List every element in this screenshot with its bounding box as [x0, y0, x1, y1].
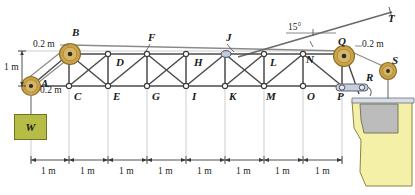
- joint-label-J: J: [226, 32, 232, 43]
- weight-block: W: [14, 114, 47, 140]
- joint-label-S: S: [392, 55, 398, 66]
- pulley-B: [60, 44, 81, 65]
- joint-label-F: F: [148, 32, 155, 43]
- joint-N: [300, 51, 305, 56]
- dimension-chain-bottom: [31, 156, 342, 164]
- angle-label-15deg: 15°: [288, 23, 301, 33]
- pulley-A-hub: [29, 84, 33, 88]
- joint-C: [66, 83, 71, 88]
- wall-top-ledge: [352, 98, 414, 103]
- leader-line-F: [146, 44, 150, 51]
- joint-label-N: N: [306, 54, 314, 65]
- joint-E: [105, 83, 110, 88]
- joint-M: [261, 83, 266, 88]
- joint-H: [183, 51, 188, 56]
- weight-label: W: [15, 115, 46, 139]
- member-E-F: [108, 54, 147, 86]
- dimension-label-height: 1 m: [4, 63, 19, 73]
- joint-label-G: G: [152, 91, 160, 102]
- joint-J-saddle: [221, 51, 231, 58]
- joint-label-R: R: [366, 72, 373, 83]
- joint-label-D: D: [116, 57, 124, 68]
- joint-K: [222, 83, 227, 88]
- angle-tick-lower: [310, 41, 313, 47]
- joint-label-E: E: [113, 91, 120, 102]
- joint-label-O: O: [307, 91, 315, 102]
- cable-B-to-Q-top: [69, 45, 345, 51]
- joint-label-B: B: [72, 27, 79, 38]
- joint-label-Q: Q: [338, 36, 346, 47]
- roller-right: [359, 85, 364, 90]
- member-I-J: [186, 54, 225, 86]
- pulley-Q: [334, 46, 355, 67]
- joint-L: [261, 51, 266, 56]
- bay-label-4: 1 m: [158, 167, 173, 177]
- joint-label-H: H: [194, 57, 203, 68]
- bay-label-2: 1 m: [80, 167, 95, 177]
- bay-label-5: 1 m: [197, 167, 212, 177]
- truss-diagram-figure: W B D F H J L N Q A C E G I K M O P R S …: [0, 0, 415, 195]
- joint-label-M: M: [266, 91, 276, 102]
- dimension-label-pulley-q-offset: 0.2 m: [362, 40, 384, 50]
- joint-F: [144, 51, 149, 56]
- bay-label-1: 1 m: [41, 167, 56, 177]
- angle-marker-15: [310, 29, 313, 47]
- dim-v-arrow-top: [20, 51, 24, 55]
- dimension-label-pulley-a-offset: 0.2 m: [40, 86, 62, 96]
- bay-label-7: 1 m: [275, 167, 290, 177]
- joint-label-T: T: [388, 13, 395, 24]
- cable-Q-to-S: [352, 52, 385, 67]
- pulley-B-hub: [68, 52, 73, 57]
- joint-label-P: P: [337, 91, 344, 102]
- pulley-S-hub: [386, 69, 390, 73]
- wall-inset-panel: [360, 104, 398, 133]
- joint-label-I: I: [192, 91, 196, 102]
- pulley-Q-hub: [342, 54, 347, 59]
- joint-O: [300, 83, 305, 88]
- bay-label-3: 1 m: [119, 167, 134, 177]
- bay-label-6: 1 m: [236, 167, 251, 177]
- wall-support: [352, 98, 414, 186]
- joint-D: [105, 51, 110, 56]
- dimension-label-pulley-b-offset: 0.2 m: [33, 40, 55, 50]
- joint-I: [183, 83, 188, 88]
- joint-G: [144, 83, 149, 88]
- joint-label-C: C: [74, 91, 81, 102]
- bay-label-8: 1 m: [315, 167, 330, 177]
- joint-label-L: L: [270, 57, 277, 68]
- joint-label-K: K: [229, 91, 236, 102]
